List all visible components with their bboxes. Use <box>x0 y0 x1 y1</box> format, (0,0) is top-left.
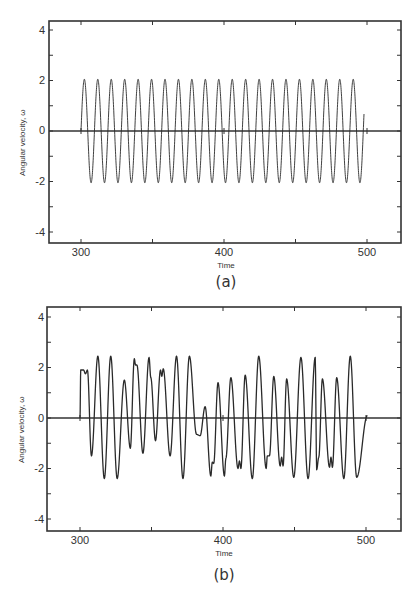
xtick-label: 500 <box>357 534 375 546</box>
ytick-label: 2 <box>38 361 44 373</box>
x-axis-label: Time <box>215 549 232 558</box>
axes-frame <box>47 307 401 531</box>
y-axis-label: Angular velocity, ω <box>17 396 26 463</box>
ytick-label: -4 <box>34 513 44 525</box>
ytick-label: 4 <box>38 311 44 323</box>
plot-area-b <box>0 0 420 595</box>
ytick-label: -2 <box>34 462 44 474</box>
xtick-label: 400 <box>214 534 232 546</box>
figure-b: 4 2 0 -2 -4 300 400 500 Time Angular vel… <box>0 0 420 595</box>
ytick-label: 0 <box>38 412 44 424</box>
xtick-label: 300 <box>71 534 89 546</box>
figure-caption: (b) <box>213 566 234 584</box>
